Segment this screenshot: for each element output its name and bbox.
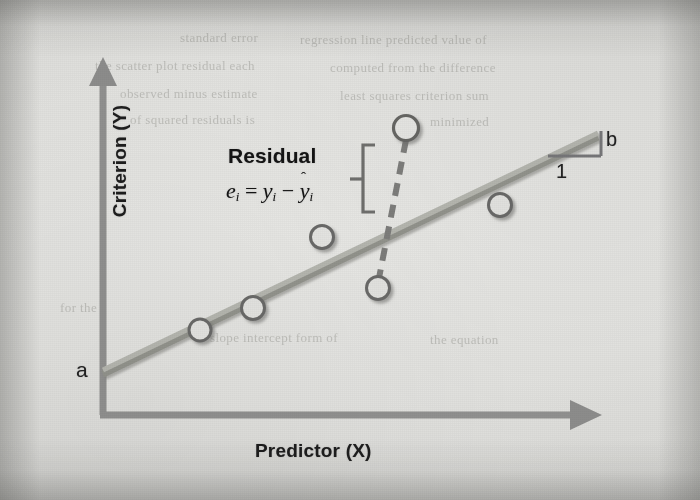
formula-yhat-wrap: ˆy (300, 178, 310, 204)
formula-hat: ˆ (299, 169, 309, 186)
residual-dashed-line (379, 140, 406, 278)
regression-plot-svg (0, 0, 700, 500)
residual-title: Residual (228, 144, 316, 168)
axes-group (89, 57, 602, 430)
figure-canvas: standard errorregression line predicted … (0, 0, 700, 500)
formula-minus: − (282, 178, 294, 203)
regression-line-group (103, 133, 598, 374)
slope-run-label: 1 (556, 160, 567, 183)
formula-y: y (263, 178, 273, 203)
regression-line (103, 133, 598, 370)
formula-equals: = (245, 178, 257, 203)
residual-formula: ei = yi − ˆyi (226, 178, 313, 205)
data-point (189, 319, 211, 341)
data-point (489, 194, 512, 217)
formula-e-sub: i (236, 189, 240, 204)
formula-e: e (226, 178, 236, 203)
regression-line-under (103, 137, 598, 374)
data-point (242, 297, 265, 320)
y-axis-label: Criterion (Y) (109, 71, 131, 251)
residual-bracket (350, 145, 375, 212)
data-point (367, 277, 390, 300)
intercept-label: a (76, 358, 88, 382)
x-axis-arrowhead (570, 400, 602, 430)
data-point (394, 116, 419, 141)
formula-yhat-sub: i (309, 189, 313, 204)
slope-rise-label: b (606, 128, 617, 151)
data-point (311, 226, 334, 249)
x-axis-label: Predictor (X) (255, 440, 372, 462)
formula-y-sub: i (273, 189, 277, 204)
